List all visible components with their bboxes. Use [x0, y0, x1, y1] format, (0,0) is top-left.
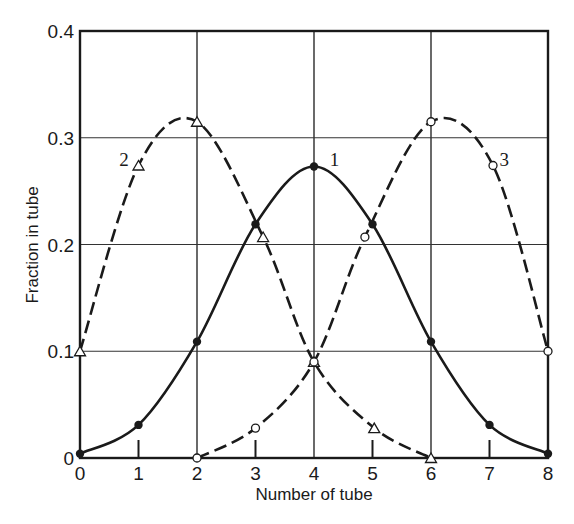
x-tick-label: 7 — [484, 463, 495, 484]
curve-2 — [80, 118, 431, 458]
x-tick-label: 2 — [192, 463, 203, 484]
x-tick-label: 5 — [367, 463, 378, 484]
open-circle-marker — [544, 347, 552, 355]
filled-circle-marker — [544, 450, 552, 458]
x-tick-label: 6 — [426, 463, 437, 484]
filled-circle-marker — [310, 162, 318, 170]
open-triangle-marker — [192, 117, 203, 127]
filled-circle-marker — [76, 450, 84, 458]
x-tick-labels: 012345678 — [75, 463, 554, 484]
filled-circle-marker — [251, 220, 259, 228]
x-tick-label: 4 — [309, 463, 320, 484]
filled-circle-marker — [368, 220, 376, 228]
filled-circle-marker — [485, 421, 493, 429]
open-triangle-marker — [258, 232, 269, 242]
x-tick-label: 0 — [75, 463, 86, 484]
y-tick-label: 0 — [63, 448, 74, 469]
x-tick-label: 8 — [543, 463, 554, 484]
filled-circle-marker — [427, 337, 435, 345]
curve-label-1: 1 — [330, 149, 340, 170]
curve-label-3: 3 — [499, 149, 509, 170]
y-tick-label: 0.3 — [48, 128, 74, 149]
y-axis-title: Fraction in tube — [23, 186, 42, 303]
x-axis-title: Number of tube — [255, 485, 372, 504]
y-tick-label: 0.4 — [48, 21, 75, 42]
y-tick-label: 0.2 — [48, 235, 74, 256]
grid-lines — [80, 31, 548, 458]
open-circle-marker — [361, 233, 369, 241]
open-circle-marker — [489, 162, 497, 170]
open-circle-marker — [193, 454, 201, 462]
open-circle-marker — [427, 118, 435, 126]
y-tick-label: 0.1 — [48, 341, 74, 362]
curve-label-2: 2 — [119, 149, 129, 170]
filled-circle-marker — [134, 421, 142, 429]
open-triangle-marker — [133, 161, 144, 171]
x-tick-label: 3 — [250, 463, 261, 484]
filled-circle-marker — [193, 337, 201, 345]
x-tick-label: 1 — [133, 463, 144, 484]
y-tick-labels: 00.10.20.30.4 — [48, 21, 75, 469]
open-circle-marker — [252, 424, 260, 432]
open-circle-marker — [310, 358, 318, 366]
chart-figure: 012345678 00.10.20.30.4 123 Number of tu… — [0, 0, 574, 524]
